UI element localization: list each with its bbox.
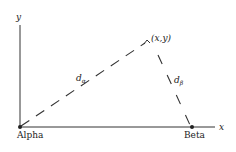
d-alpha-subscript: α [82, 77, 86, 84]
distance-line-beta [158, 55, 190, 125]
d-beta-label: dβ [174, 76, 183, 86]
beta-point-icon [190, 125, 194, 129]
y-axis-label: y [16, 13, 21, 22]
d-alpha-label: dα [76, 74, 86, 84]
target-point-label: (x,y) [151, 34, 171, 43]
alpha-label: Alpha [17, 131, 43, 140]
target-marker-icon [144, 40, 150, 44]
beta-label: Beta [184, 131, 205, 140]
alpha-point-icon [18, 125, 22, 129]
distance-line-alpha [21, 43, 145, 126]
d-beta-subscript: β [180, 79, 183, 86]
x-axis-label: x [219, 123, 224, 132]
